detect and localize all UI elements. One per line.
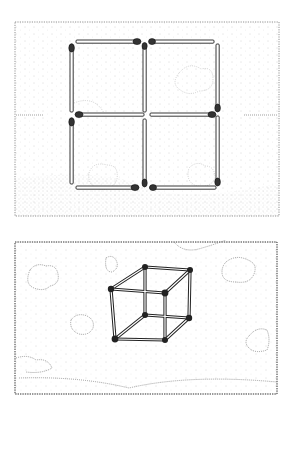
top-panel-matchstick-squares <box>14 18 280 218</box>
bottom-panel-matchstick-cube <box>14 240 280 400</box>
matchstick-cube-illustration <box>14 240 280 400</box>
matchstick-grid-illustration <box>14 18 280 218</box>
